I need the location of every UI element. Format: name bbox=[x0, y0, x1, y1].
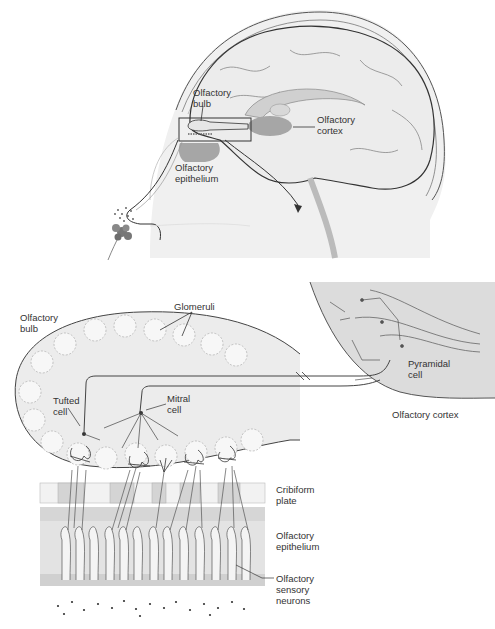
flower-icon bbox=[108, 224, 132, 260]
label-olfactory-cortex: Olfactory cortex bbox=[392, 409, 459, 420]
label-olfactory-epithelium: Olfactory epithelium bbox=[276, 530, 319, 552]
label-olfactory-cortex-top: Olfactory cortex bbox=[317, 114, 355, 136]
label-pyramidal-cell: Pyramidal cell bbox=[408, 358, 450, 380]
label-glomeruli: Glomeruli bbox=[174, 301, 215, 312]
label-olfactory-bulb-top: Olfactory bulb bbox=[193, 87, 231, 109]
label-cribiform-plate: Cribiform plate bbox=[276, 484, 315, 506]
detail-view bbox=[15, 282, 495, 617]
olfactory-cortex-region bbox=[248, 116, 292, 136]
label-olfactory-epithelium-top: Olfactory epithelium bbox=[175, 162, 218, 184]
olfactory-diagram bbox=[0, 0, 495, 629]
label-mitral-cell: Mitral cell bbox=[167, 393, 190, 415]
label-olfactory-sensory-neurons: Olfactory sensory neurons bbox=[276, 573, 314, 606]
label-tufted-cell: Tufted cell bbox=[53, 395, 80, 417]
head-sagittal-view bbox=[108, 10, 446, 260]
label-olfactory-bulb: Olfactory bulb bbox=[20, 312, 58, 334]
odor-molecules-bottom bbox=[57, 600, 245, 617]
olfactory-cortex-lobe bbox=[310, 282, 495, 398]
olfactory-epithelium-region bbox=[179, 143, 220, 162]
